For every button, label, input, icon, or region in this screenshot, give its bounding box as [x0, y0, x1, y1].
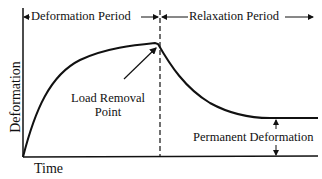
load-removal-line2: Point	[71, 105, 145, 119]
x-axis	[23, 156, 318, 157]
load-removal-pointer	[124, 48, 156, 79]
y-axis-label: Deformation	[9, 61, 23, 133]
permanent-deformation-label: Permanent Deformation	[193, 131, 313, 144]
relaxation-period-label: Relaxation Period	[189, 10, 279, 23]
load-removal-line1: Load Removal	[71, 91, 145, 105]
deformation-period-label: Deformation Period	[31, 10, 131, 23]
x-axis-label: Time	[34, 162, 63, 176]
load-removal-label: Load Removal Point	[71, 91, 145, 119]
deformation-diagram	[0, 0, 322, 179]
